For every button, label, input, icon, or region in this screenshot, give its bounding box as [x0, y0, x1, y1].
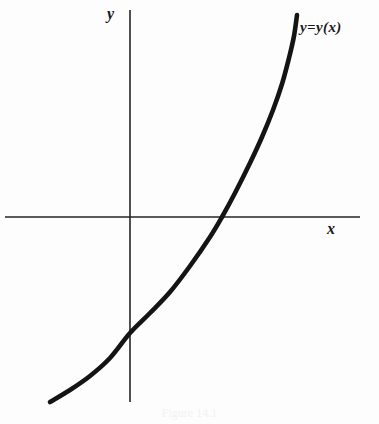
function-curve	[50, 15, 297, 402]
y-axis-label: y	[107, 6, 114, 22]
figure-container: y x y=y(x) Figure 14.1	[0, 0, 379, 424]
curve-equation-label: y=y(x)	[300, 20, 342, 35]
plot-canvas	[0, 0, 379, 424]
x-axis-label: x	[327, 221, 335, 237]
figure-caption: Figure 14.1	[0, 406, 379, 420]
